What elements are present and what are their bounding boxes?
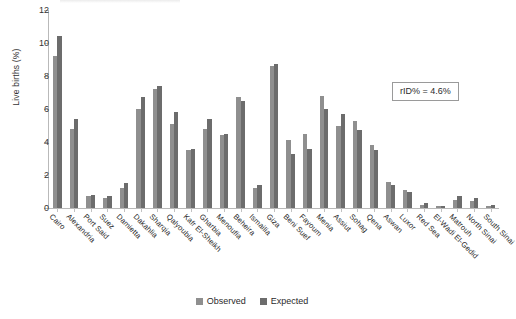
bar-expected[interactable]: [257, 185, 261, 208]
bar-expected[interactable]: [457, 196, 461, 208]
bar-expected[interactable]: [207, 119, 211, 208]
x-tick-mark: [374, 208, 375, 212]
legend-item-observed[interactable]: Observed: [196, 296, 246, 306]
bar-group[interactable]: [53, 36, 61, 208]
y-tick-label: 12: [9, 5, 49, 15]
y-tick-label: 10: [9, 38, 49, 48]
x-tick-mark: [257, 208, 258, 212]
bar-expected[interactable]: [191, 149, 195, 208]
x-tick-mark: [174, 208, 175, 212]
x-tick-mark: [357, 208, 358, 212]
bar-expected[interactable]: [241, 101, 245, 208]
x-tick-mark: [107, 208, 108, 212]
bar-expected[interactable]: [357, 130, 361, 208]
bar-expected[interactable]: [291, 154, 295, 208]
y-tick-label: 4: [9, 137, 49, 147]
y-tick-label: 2: [9, 170, 49, 180]
legend-swatch-expected-icon: [260, 298, 267, 305]
bar-expected[interactable]: [474, 198, 478, 208]
x-tick-mark: [74, 208, 75, 212]
x-tick-mark: [407, 208, 408, 212]
y-tick-label: 8: [9, 71, 49, 81]
plot-area: [49, 10, 499, 208]
bar-group[interactable]: [103, 196, 111, 208]
x-tick-mark: [57, 208, 58, 212]
bar-group[interactable]: [170, 112, 178, 208]
bar-expected[interactable]: [407, 192, 411, 209]
bar-group[interactable]: [353, 121, 361, 208]
x-tick-mark: [324, 208, 325, 212]
x-axis-label: Cairo: [48, 212, 68, 232]
bar-group[interactable]: [386, 182, 394, 208]
x-tick-mark: [491, 208, 492, 212]
bar-group[interactable]: [286, 140, 294, 208]
bar-expected[interactable]: [91, 195, 95, 208]
x-tick-mark: [207, 208, 208, 212]
bar-expected[interactable]: [324, 109, 328, 208]
y-tick-label: 6: [9, 104, 49, 114]
bar-expected[interactable]: [74, 119, 78, 208]
bar-expected[interactable]: [274, 64, 278, 208]
bar-expected[interactable]: [141, 97, 145, 208]
cropped-title-remnant: [60, 0, 180, 3]
bar-expected[interactable]: [341, 114, 345, 208]
x-tick-mark: [474, 208, 475, 212]
chart-legend: Observed Expected: [0, 296, 504, 306]
bar-group[interactable]: [153, 86, 161, 208]
bar-group[interactable]: [136, 97, 144, 208]
legend-label-observed: Observed: [207, 296, 246, 306]
bar-group[interactable]: [120, 183, 128, 208]
legend-swatch-observed-icon: [196, 298, 203, 305]
annotation-rid: rID% = 4.6%: [392, 82, 459, 101]
y-tick-label: 0: [9, 203, 49, 213]
bar-expected[interactable]: [107, 196, 111, 208]
x-tick-mark: [391, 208, 392, 212]
x-tick-mark: [274, 208, 275, 212]
x-tick-mark: [157, 208, 158, 212]
bar-expected[interactable]: [124, 183, 128, 208]
x-tick-mark: [191, 208, 192, 212]
x-tick-mark: [424, 208, 425, 212]
bar-group[interactable]: [370, 145, 378, 208]
bar-group[interactable]: [270, 64, 278, 208]
x-tick-mark: [224, 208, 225, 212]
bar-group[interactable]: [403, 190, 411, 208]
bar-expected[interactable]: [157, 86, 161, 208]
bar-group[interactable]: [203, 119, 211, 208]
bar-group[interactable]: [236, 97, 244, 208]
bar-group[interactable]: [320, 96, 328, 208]
x-tick-mark: [141, 208, 142, 212]
bar-group[interactable]: [70, 119, 78, 208]
bar-expected[interactable]: [391, 185, 395, 208]
x-tick-mark: [441, 208, 442, 212]
x-tick-mark: [124, 208, 125, 212]
x-tick-mark: [307, 208, 308, 212]
bar-group[interactable]: [86, 195, 94, 208]
x-tick-mark: [291, 208, 292, 212]
x-tick-mark: [241, 208, 242, 212]
bar-group[interactable]: [453, 196, 461, 208]
legend-label-expected: Expected: [271, 296, 309, 306]
legend-item-expected[interactable]: Expected: [260, 296, 309, 306]
x-tick-mark: [457, 208, 458, 212]
bar-expected[interactable]: [374, 150, 378, 208]
bar-group[interactable]: [470, 198, 478, 208]
bar-group[interactable]: [220, 134, 228, 208]
bar-expected[interactable]: [57, 36, 61, 208]
bar-group[interactable]: [253, 185, 261, 208]
bar-expected[interactable]: [174, 112, 178, 208]
bar-group[interactable]: [336, 114, 344, 208]
bar-expected[interactable]: [224, 134, 228, 208]
bar-expected[interactable]: [307, 149, 311, 208]
x-tick-mark: [341, 208, 342, 212]
bar-group[interactable]: [303, 134, 311, 208]
x-tick-mark: [91, 208, 92, 212]
bar-group[interactable]: [186, 149, 194, 208]
